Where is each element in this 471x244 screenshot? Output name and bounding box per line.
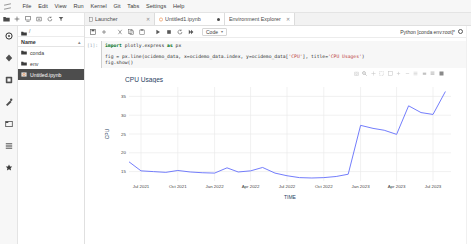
cell-prompt-label: [1]: [85,41,101,68]
chart-xtick-label: Apr 2022 [242,184,260,189]
menu-item-kernel[interactable]: Kernel [87,0,110,13]
chart-yaxis-title: CPU [104,128,110,139]
plotly-modebar [353,70,444,76]
list-item[interactable]: env [18,58,84,69]
chart-ytick-label: 20 [121,150,126,155]
list-item[interactable]: Untitled.ipynb [18,69,84,80]
extension-manager-icon[interactable] [3,162,15,174]
output-prompt-spacer [85,69,101,205]
list-item[interactable]: conda [18,47,84,58]
column-header-name[interactable]: Name [21,39,36,45]
camera-icon[interactable] [353,70,359,76]
reset-axes-icon[interactable] [421,70,427,76]
cell-type-value: Code [206,28,218,36]
running-terminals-icon[interactable] [3,52,15,64]
tab-bar: Launcher ✕ Untitled1.ipynb Environment E… [85,13,471,25]
tab-label-untitled1-ipynb: Untitled1.ipynb [165,16,215,22]
tab-launcher[interactable]: Launcher ✕ [85,13,155,25]
folder-icon[interactable] [2,14,11,25]
chevron-down-icon: ▾ [221,28,223,36]
menu-item-run[interactable]: Run [70,0,87,13]
chart-ytick-label: 30 [121,113,126,118]
chart-xtick-label: Jul 2021 [133,184,150,189]
file-list-header: Name ▴ [18,37,84,47]
git-icon[interactable] [3,74,15,86]
chart-xtick-label: Jan 2023 [352,184,371,189]
kernel-name-label: Python [conda env:root]* [400,29,455,35]
restart-icon[interactable] [175,27,184,36]
code-line: fig.show() [105,60,463,66]
menu-item-help[interactable]: Help [170,0,188,13]
zoom-out-icon[interactable] [404,70,410,76]
launcher-icon [89,17,93,22]
notebook-icon [21,72,27,77]
sort-caret-icon[interactable]: ▴ [78,39,81,45]
file-browser-panel: / Name ▴ conda env Untitled.ipynb [18,26,85,244]
run-icon[interactable] [153,27,162,36]
code-cell[interactable]: [1]: import plotly.express as px fig = p… [85,38,466,68]
copy-icon[interactable] [126,27,135,36]
chart-xtick-label: Oct 2021 [169,184,187,189]
notebook-panel: Code ▾ Python [conda env:root]* [1]: imp… [85,26,466,244]
kernel-idle-icon[interactable] [458,29,463,34]
list-item-label: Untitled.ipynb [30,72,61,78]
right-scrollbar-strip[interactable] [466,26,471,244]
chart-svg: Jul 2021Oct 2021Jan 2022Apr 2022Jul 2022… [103,83,461,201]
new-folder-icon[interactable] [33,14,44,25]
notebook-toolbar: Code ▾ Python [conda env:root]* [85,26,466,38]
plotly-logo-icon[interactable] [438,70,444,76]
paste-icon[interactable] [137,27,146,36]
chart-ytick-label: 35 [121,94,126,99]
toggle-spikelines-icon[interactable] [430,70,436,76]
menu-item-edit[interactable]: Edit [35,0,51,13]
close-icon[interactable]: ✕ [285,16,290,22]
activity-bar [0,26,18,244]
menu-item-git[interactable]: Git [110,0,124,13]
save-icon[interactable] [88,27,97,36]
tab-environment-explorer[interactable]: Environment Explorer ✕ [225,13,295,25]
restart-run-all-icon[interactable] [186,27,195,36]
table-of-contents-icon[interactable] [3,140,15,152]
workspace: / Name ▴ conda env Untitled.ipynb [0,26,471,244]
zoom-in-icon[interactable] [396,70,402,76]
tab-untitled1-ipynb[interactable]: Untitled1.ipynb [155,13,225,25]
pan-icon[interactable] [370,70,376,76]
debugger-icon[interactable] [3,96,15,108]
stop-icon[interactable] [164,27,173,36]
open-tabs-icon[interactable] [3,118,15,130]
refresh-icon[interactable] [44,14,55,25]
menu-item-tabs[interactable]: Tabs [124,0,143,13]
cut-icon[interactable] [115,27,124,36]
cell-type-select[interactable]: Code ▾ [202,28,227,36]
file-browser-icon[interactable] [3,30,15,42]
menu-item-file[interactable]: File [19,0,35,13]
chart-xaxis-title: TIME [284,194,297,200]
tab-label-environment-explorer: Environment Explorer [229,16,283,22]
autoscale-icon[interactable] [413,70,419,76]
zoom-icon[interactable] [362,70,368,76]
unsaved-indicator-icon[interactable] [217,18,220,21]
chart-canvas[interactable]: Jul 2021Oct 2021Jan 2022Apr 2022Jul 2022… [103,83,466,205]
menu-item-settings[interactable]: Settings [143,0,170,13]
file-list-empty-space [18,80,84,244]
filter-icon[interactable] [55,14,66,25]
close-icon[interactable]: ✕ [145,16,150,22]
menu-bar: File Edit View Run Kernel Git Tabs Setti… [0,0,471,13]
cell-output: CPU Usages Jul 2021Oct 2021Jan 2022Apr 2… [85,68,466,205]
chart-xtick-label: Jul 2023 [425,184,442,189]
kernel-indicator[interactable]: Python [conda env:root]* [400,29,463,35]
tab-label-launcher: Launcher [95,16,143,22]
breadcrumb[interactable]: / [18,26,84,37]
tab-bar-empty-space [295,13,471,25]
file-browser-toolbar [0,13,85,25]
lasso-select-icon[interactable] [387,70,393,76]
breadcrumb-path: / [29,28,30,34]
cell-editor[interactable]: import plotly.express as px fig = px.lin… [101,41,466,68]
menu-item-view[interactable]: View [51,0,70,13]
plotly-figure[interactable]: CPU Usages Jul 2021Oct 2021Jan 2022Apr 2… [101,69,466,205]
add-cell-icon[interactable] [99,27,108,36]
notebook-scroll-area[interactable]: [1]: import plotly.express as px fig = p… [85,38,466,244]
box-select-icon[interactable] [379,70,385,76]
secondary-toolbar-row: Launcher ✕ Untitled1.ipynb Environment E… [0,13,471,26]
folder-icon [21,61,27,66]
